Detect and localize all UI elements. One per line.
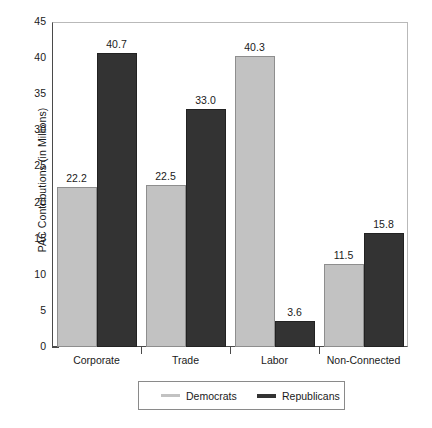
x-tick-label-non-connected: Non-Connected	[299, 354, 428, 366]
bar-corporate-republicans	[97, 53, 137, 347]
legend-label: Republicans	[282, 390, 340, 402]
legend-swatch-republicans	[257, 394, 276, 398]
bar-value-label: 33.0	[176, 94, 236, 106]
y-tick-label: 15	[10, 232, 46, 244]
y-tick-label: 10	[10, 268, 46, 280]
legend-swatch-democrats	[161, 394, 180, 397]
bar-value-label: 15.8	[354, 218, 414, 230]
bar-labor-democrats	[235, 56, 275, 347]
bar-value-label: 40.3	[225, 41, 285, 53]
y-tick-label: 45	[10, 15, 46, 27]
y-tick-label: 30	[10, 123, 46, 135]
legend: DemocratsRepublicans	[138, 381, 345, 410]
y-tick-label: 25	[10, 159, 46, 171]
y-tick-mark	[52, 347, 59, 348]
bar-corporate-democrats	[57, 187, 97, 347]
x-axis-separator-tick	[319, 347, 320, 354]
bar-trade-democrats	[146, 185, 186, 348]
y-tick-label: 0	[10, 340, 46, 352]
bar-non-connected-democrats	[324, 264, 364, 347]
pac-contributions-bar-chart: PAC Contributions (in Millions) 05101520…	[0, 0, 432, 428]
bar-trade-republicans	[186, 109, 226, 347]
bar-value-label: 3.6	[265, 306, 325, 318]
legend-item-democrats[interactable]: Democrats	[161, 382, 237, 409]
legend-label: Democrats	[186, 390, 237, 402]
y-tick-label: 5	[10, 304, 46, 316]
x-axis-separator-tick	[230, 347, 231, 354]
y-tick-label: 40	[10, 51, 46, 63]
y-tick-label: 20	[10, 196, 46, 208]
x-axis-separator-tick	[141, 347, 142, 354]
bar-non-connected-republicans	[364, 233, 404, 347]
y-tick-label: 35	[10, 87, 46, 99]
legend-item-republicans[interactable]: Republicans	[257, 382, 340, 409]
bar-value-label: 40.7	[87, 38, 147, 50]
bar-labor-republicans	[275, 321, 315, 347]
